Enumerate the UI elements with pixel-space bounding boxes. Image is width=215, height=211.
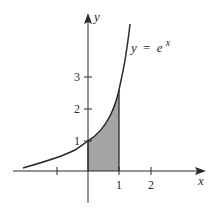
y-tick-label-3: 3 [74, 70, 80, 84]
shaded-area [88, 90, 119, 171]
x-tick-label-1: 1 [116, 178, 122, 192]
y-axis-label: y [92, 9, 100, 24]
curve-label-exponent: x [165, 37, 171, 48]
y-tick-label-1: 1 [74, 134, 80, 148]
x-tick-label-2: 2 [148, 178, 154, 192]
exponential-area-diagram: 1 2 1 2 3 x y y = e x [0, 0, 215, 211]
curve-label: y = e x [129, 37, 171, 55]
diagram-canvas: 1 2 1 2 3 x y y = e x [0, 0, 215, 211]
curve-label-lhs: y [129, 40, 137, 55]
curve-label-eq: = [143, 40, 150, 55]
y-tick-label-2: 2 [74, 102, 80, 116]
curve-label-base: e [157, 40, 163, 55]
x-axis-label: x [197, 173, 204, 188]
